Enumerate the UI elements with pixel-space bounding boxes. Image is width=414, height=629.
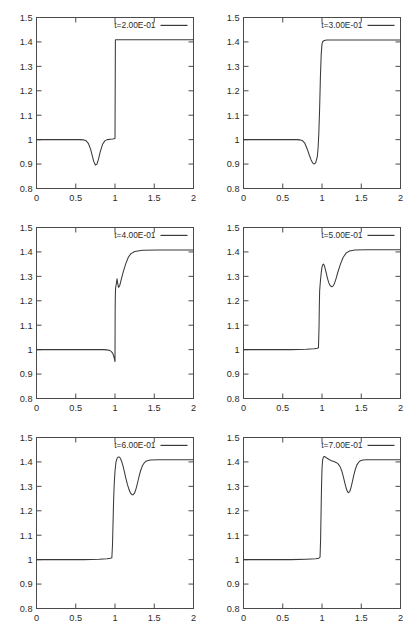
y-tick-label: 1 [27,135,32,145]
y-tick-label: 1.2 [20,506,33,516]
y-tick-label: 1.4 [227,247,240,257]
x-tick-label: 2 [191,613,196,623]
y-tick-label: 1.3 [227,272,240,282]
y-tick-label: 0.8 [227,604,240,614]
x-tick-label: 0 [241,403,246,413]
chart-panel-4: 0.80.911.11.21.31.41.500.511.52t=5.00E-0… [207,210,414,420]
data-curve [37,40,194,165]
y-tick-label: 1 [234,555,239,565]
legend-label: t=6.00E-01 [114,440,156,450]
y-tick-label: 0.9 [20,369,33,379]
x-tick-label: 1.5 [355,193,368,203]
x-tick-label: 2 [398,403,403,413]
y-tick-label: 1 [234,135,239,145]
y-tick-label: 1.1 [20,111,33,121]
y-tick-label: 1.3 [20,482,33,492]
x-tick-label: 0 [34,403,39,413]
y-tick-label: 1.1 [227,321,240,331]
y-tick-label: 0.8 [227,394,240,404]
y-tick-label: 1.1 [227,531,240,541]
x-tick-label: 0 [34,193,39,203]
y-tick-label: 1.4 [227,37,240,47]
x-tick-label: 2 [398,193,403,203]
x-tick-label: 0.5 [69,193,82,203]
legend-label: t=3.00E-01 [321,20,363,30]
x-tick-label: 2 [398,613,403,623]
legend-label: t=4.00E-01 [114,230,156,240]
y-tick-label: 1.2 [227,296,240,306]
legend-label: t=5.00E-01 [321,230,363,240]
x-tick-label: 1.5 [355,403,368,413]
x-tick-label: 1 [112,613,117,623]
y-tick-label: 1.3 [20,272,33,282]
y-tick-label: 1 [27,555,32,565]
y-tick-label: 1.5 [20,433,33,443]
y-tick-label: 1 [27,345,32,355]
x-tick-label: 1.5 [148,403,161,413]
y-tick-label: 1.5 [227,223,240,233]
y-tick-label: 1.1 [20,531,33,541]
y-tick-label: 0.8 [227,184,240,194]
plot-frame [244,228,401,399]
x-tick-label: 0.5 [276,403,289,413]
x-tick-label: 1 [112,193,117,203]
x-tick-label: 1 [319,403,324,413]
data-curve [244,40,401,164]
y-tick-label: 1.1 [227,111,240,121]
y-tick-label: 1.3 [227,62,240,72]
y-tick-label: 0.9 [20,159,33,169]
x-tick-label: 0 [34,613,39,623]
y-tick-label: 1.4 [227,457,240,467]
x-tick-label: 1 [319,193,324,203]
x-tick-label: 2 [191,193,196,203]
chart-panel-5: 0.80.911.11.21.31.41.500.511.52t=6.00E-0… [0,420,207,629]
y-tick-label: 1.5 [227,433,240,443]
data-curve [244,457,401,560]
figure-panel-grid: 0.80.911.11.21.31.41.500.511.52t=2.00E-0… [0,0,414,629]
y-tick-label: 0.8 [20,184,33,194]
y-tick-label: 1.4 [20,247,33,257]
x-tick-label: 1 [319,613,324,623]
chart-panel-1: 0.80.911.11.21.31.41.500.511.52t=2.00E-0… [0,0,207,210]
y-tick-label: 1.2 [20,296,33,306]
y-tick-label: 1.3 [20,62,33,72]
y-tick-label: 1 [234,345,239,355]
plot-frame [37,438,194,609]
y-tick-label: 1.2 [227,506,240,516]
x-tick-label: 0 [241,193,246,203]
y-tick-label: 1.4 [20,37,33,47]
chart-panel-6: 0.80.911.11.21.31.41.500.511.52t=7.00E-0… [207,420,414,629]
y-tick-label: 1.1 [20,321,33,331]
y-tick-label: 0.9 [227,159,240,169]
y-tick-label: 1.2 [227,86,240,96]
y-tick-label: 1.3 [227,482,240,492]
y-tick-label: 1.5 [20,13,33,23]
data-curve [37,457,194,560]
chart-panel-2: 0.80.911.11.21.31.41.500.511.52t=3.00E-0… [207,0,414,210]
x-tick-label: 1.5 [148,613,161,623]
legend-label: t=7.00E-01 [321,440,363,450]
x-tick-label: 1 [112,403,117,413]
legend-label: t=2.00E-01 [114,20,156,30]
y-tick-label: 0.8 [20,394,33,404]
y-tick-label: 1.5 [227,13,240,23]
y-tick-label: 1.5 [20,223,33,233]
data-curve [244,250,401,350]
y-tick-label: 1.4 [20,457,33,467]
y-tick-label: 1.2 [20,86,33,96]
y-tick-label: 0.9 [227,369,240,379]
chart-panel-3: 0.80.911.11.21.31.41.500.511.52t=4.00E-0… [0,210,207,420]
x-tick-label: 0.5 [276,613,289,623]
y-tick-label: 0.9 [20,579,33,589]
y-tick-label: 0.9 [227,579,240,589]
data-curve [37,250,194,362]
x-tick-label: 2 [191,403,196,413]
x-tick-label: 0.5 [276,193,289,203]
x-tick-label: 1.5 [355,613,368,623]
x-tick-label: 0.5 [69,613,82,623]
x-tick-label: 0 [241,613,246,623]
y-tick-label: 0.8 [20,604,33,614]
x-tick-label: 0.5 [69,403,82,413]
x-tick-label: 1.5 [148,193,161,203]
